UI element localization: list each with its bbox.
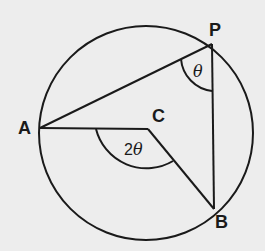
segment-AP [40,44,212,128]
point-label-P: P [209,20,221,40]
point-label-B: B [215,212,228,232]
geometry-figure: P A B C θ 2θ [0,0,265,251]
point-label-A: A [18,118,31,138]
circle [39,26,253,240]
angle-label-theta: θ [193,62,203,81]
angle-label-2theta-greek: θ [133,140,143,159]
segment-AC [40,128,148,129]
angle-label-2theta-num: 2 [124,141,133,158]
segment-CB [148,129,214,209]
point-label-C: C [152,106,165,126]
angle-label-2theta: 2θ [124,140,143,159]
segment-PB [212,44,214,209]
diagram-canvas: P A B C θ 2θ [0,0,265,251]
